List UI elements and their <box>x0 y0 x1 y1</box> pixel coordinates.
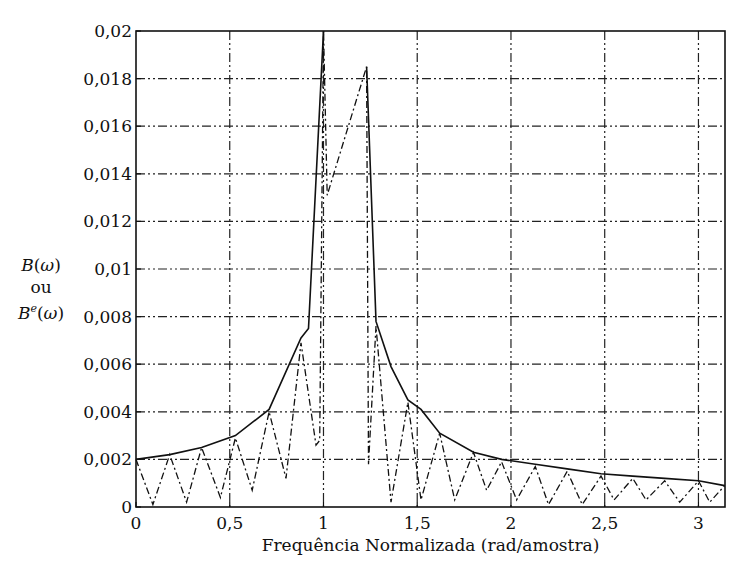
y-tick-label: 0,018 <box>83 69 132 89</box>
y-tick-label: 0,002 <box>83 449 132 469</box>
grid-lines <box>136 31 725 507</box>
y-tick-label: 0,006 <box>83 354 132 374</box>
series-be-omega-line <box>136 31 725 505</box>
series-b-omega-line <box>367 67 725 486</box>
y-axis-label-line-2: ou <box>8 276 74 298</box>
y-tick-label: 0,012 <box>83 211 132 231</box>
y-tick-label: 0,016 <box>83 116 132 136</box>
y-tick-label: 0,004 <box>83 402 132 422</box>
x-tick-label: 1 <box>318 513 329 533</box>
y-axis-label-line-1: B(ω) <box>8 254 74 276</box>
plot-series <box>136 31 725 505</box>
y-axis-ticks: 00,0020,0040,0060,0080,010,0120,0140,016… <box>83 21 141 517</box>
y-tick-label: 0,008 <box>83 307 132 327</box>
y-axis-label-line-3: Be(ω) <box>8 298 74 324</box>
y-axis-label: B(ω) ou Be(ω) <box>8 254 74 324</box>
x-tick-label: 2 <box>506 513 517 533</box>
x-tick-label: 1,5 <box>404 513 431 533</box>
x-tick-label: 2,5 <box>591 513 618 533</box>
x-tick-label: 3 <box>693 513 704 533</box>
x-tick-label: 0,5 <box>216 513 243 533</box>
y-tick-label: 0,01 <box>94 259 132 279</box>
chart-svg: 00,0020,0040,0060,0080,010,0120,0140,016… <box>0 0 741 578</box>
x-axis-label: Frequência Normalizada (rad/amostra) <box>262 535 600 555</box>
y-tick-label: 0,014 <box>83 164 132 184</box>
x-tick-label: 0 <box>131 513 142 533</box>
y-tick-label: 0,02 <box>94 21 132 41</box>
